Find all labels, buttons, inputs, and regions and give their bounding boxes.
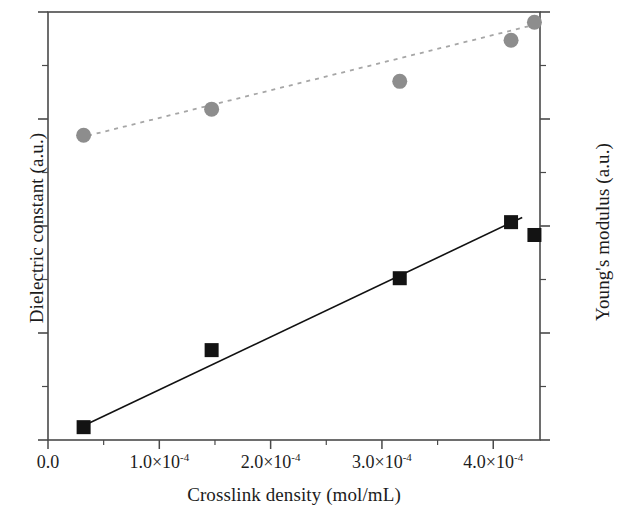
x-tick-exponent: -4 [291,451,300,463]
x-tick-label: 2.0×10-4 [241,452,301,473]
data-point-circle [392,74,407,89]
trend-lines [79,24,538,427]
axes-frame [48,12,540,440]
data-point-square [205,343,219,357]
y-axis-left-title: Dielectric constant (a.u.) [26,8,52,448]
data-markers [76,15,542,434]
y-axis-right-title: Young's modulus (a.u.) [592,12,618,452]
x-tick-mantissa: 3.0×10 [352,452,403,472]
plot-frame-box [48,12,540,440]
trend-line-1 [79,24,538,138]
data-point-square [393,271,407,285]
x-tick-exponent: -4 [180,451,189,463]
x-tick-label: 1.0×10-4 [129,452,189,473]
data-point-square [527,228,541,242]
data-point-square [77,420,91,434]
data-point-circle [527,15,542,30]
trend-line-2 [81,217,522,426]
y-axis-right-ticks [540,12,550,440]
x-tick-mantissa: 4.0×10 [463,452,514,472]
data-point-circle [76,128,91,143]
x-tick-label: 0.0 [37,452,60,473]
x-tick-label: 3.0×10-4 [352,452,412,473]
data-point-circle [204,102,219,117]
x-tick-exponent: -4 [403,451,412,463]
x-tick-label: 4.0×10-4 [463,452,523,473]
data-point-circle [504,33,519,48]
x-tick-mantissa: 2.0×10 [241,452,292,472]
data-point-square [504,215,518,229]
x-tick-exponent: -4 [514,451,523,463]
x-tick-mantissa: 0.0 [37,452,60,472]
x-tick-mantissa: 1.0×10 [129,452,180,472]
x-axis-title: Crosslink density (mol/mL) [48,484,540,506]
x-axis-ticks [48,440,493,449]
